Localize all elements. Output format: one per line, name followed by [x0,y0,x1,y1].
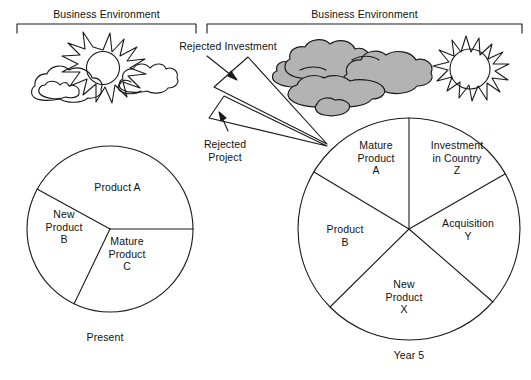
rejected-investment-label: Rejected Investment [168,40,288,53]
year5-spoke-4 [314,172,409,229]
year5-slice-label-new-product-x: New Product X [372,278,436,316]
year5-slice-label-mature-product-a: Mature Product A [345,139,407,177]
rejected-project-arrowhead [219,112,226,121]
present-slice-label-mature-product-c: Mature Product C [96,235,158,273]
present-slice-label-product-a: Product A [75,181,160,194]
year5-pie-title: Year 5 [374,349,444,362]
rejected-investment-arrowhead [228,71,237,80]
present-pie-title: Present [70,331,140,344]
sun-future-icon [433,36,509,101]
present-slice-label-new-product-b: New Product B [33,208,95,246]
storm-clouds-future-icon [273,40,433,116]
year5-slice-label-acquisition-y: Acquisition Y [428,217,508,242]
right-bracket [207,24,522,33]
left-bracket-label: Business Environment [17,8,196,21]
right-bracket-label: Business Environment [207,8,522,21]
rejected-project-label: Rejected Project [190,138,260,163]
year5-slice-label-investment-country-z: Investment in Country Z [414,139,500,177]
left-bracket [17,24,196,33]
year5-slice-label-product-b: Product B [314,223,376,248]
sun-cloud-present-icon [32,32,178,103]
figure-canvas: Business Environment Business Environmen… [0,0,531,380]
